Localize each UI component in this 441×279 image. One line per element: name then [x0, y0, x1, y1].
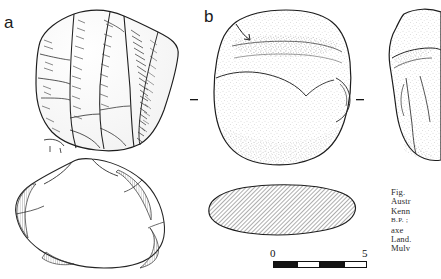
scale-label-max: 5: [362, 247, 368, 259]
figure-plate: [0, 0, 441, 279]
scale-bar: [273, 261, 367, 268]
caption-line: Mulv: [391, 244, 441, 253]
specimen-a-lateral-drawing: [36, 10, 178, 153]
scale-segment: [297, 261, 321, 268]
figure-caption: Fig. Austr Kenn B.P. ; axe Land. Mulv: [391, 188, 441, 254]
scale-segment: [320, 261, 344, 268]
caption-line: B.P. ;: [391, 216, 441, 225]
specimen-a-plan-drawing: [16, 159, 165, 268]
caption-line: Austr: [391, 197, 441, 206]
section-tick-right: [356, 99, 364, 100]
caption-line: axe: [391, 226, 441, 235]
scale-segment: [344, 261, 368, 268]
specimen-c-side-drawing: [389, 9, 441, 160]
caption-line: Fig.: [391, 188, 441, 197]
caption-line: Land.: [391, 235, 441, 244]
specimen-b-face-drawing: [190, 10, 364, 165]
caption-line: Kenn: [391, 207, 441, 216]
specimen-b-cross-section: [209, 185, 356, 235]
scale-segment: [273, 261, 297, 268]
scale-label-min: 0: [270, 247, 276, 259]
panel-label-a: a: [4, 14, 13, 31]
section-tick-left: [190, 99, 198, 100]
panel-label-b: b: [204, 8, 213, 25]
